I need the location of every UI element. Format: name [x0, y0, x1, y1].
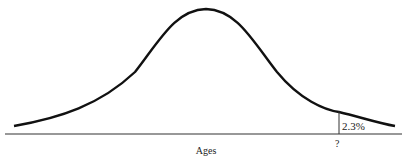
bell-curve-chart: 2.3% ? Ages [0, 0, 406, 161]
normal-curve [14, 9, 395, 126]
tail-percent-label: 2.3% [342, 120, 365, 132]
x-axis-label: Ages [196, 145, 217, 156]
cutoff-label: ? [335, 138, 340, 149]
